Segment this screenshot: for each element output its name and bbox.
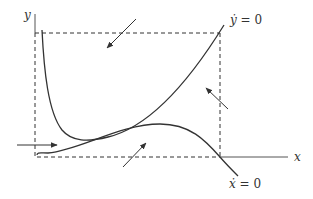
x-axis-label: x — [294, 150, 301, 164]
phase-diagram: y x ẏ = 0 ẋ = 0 — [0, 0, 313, 199]
arrow-top-icon — [107, 19, 136, 48]
x-dot-nullcline-label: ẋ = 0 — [229, 177, 261, 191]
y-axis-label: y — [23, 8, 31, 22]
y-dot-nullcline-curve — [42, 25, 224, 140]
y-dot-nullcline-label: ẏ = 0 — [229, 13, 262, 27]
x-dot-nullcline-curve — [37, 124, 238, 176]
arrow-right-icon — [206, 88, 228, 109]
arrow-bottom-icon — [123, 143, 146, 167]
